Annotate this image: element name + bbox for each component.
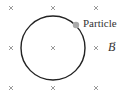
cross-icon bbox=[9, 86, 13, 90]
cross-icon bbox=[51, 86, 55, 90]
particle-label: Particle bbox=[83, 17, 117, 29]
cross-icon bbox=[9, 46, 13, 50]
cross-icon bbox=[94, 46, 98, 50]
particle-dot bbox=[73, 22, 79, 28]
cross-icon bbox=[9, 6, 13, 10]
cross-icon bbox=[51, 6, 55, 10]
magnetic-field-label: B bbox=[108, 40, 115, 55]
cross-icon bbox=[51, 46, 55, 50]
cross-icon bbox=[94, 6, 98, 10]
cross-icon bbox=[94, 86, 98, 90]
diagram-canvas bbox=[0, 0, 119, 94]
